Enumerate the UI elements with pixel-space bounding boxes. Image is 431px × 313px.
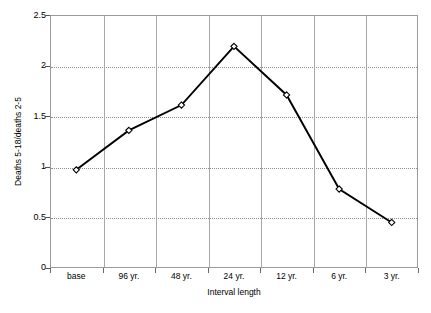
gridline-vertical — [156, 16, 157, 267]
line-chart: 2.5 2 1.5 1 0.5 0 — [0, 0, 431, 313]
x-tick-label: 24 yr. — [208, 272, 261, 281]
gridline-vertical — [209, 16, 210, 267]
gridline-horizontal — [51, 218, 417, 219]
y-axis-title-text: Deaths 5-18/deaths 2-5 — [14, 97, 23, 186]
gridline-horizontal — [51, 67, 417, 68]
x-tick-mark — [418, 268, 419, 273]
x-tick-label: 96 yr. — [103, 272, 156, 281]
x-tick-label: 6 yr. — [313, 272, 366, 281]
gridline-horizontal — [51, 168, 417, 169]
gridline-vertical — [261, 16, 262, 267]
plot-area — [50, 15, 418, 268]
x-tick-label: 3 yr. — [365, 272, 418, 281]
x-tick-label: 48 yr. — [155, 272, 208, 281]
x-tick-label: base — [50, 272, 103, 281]
gridline-horizontal — [51, 117, 417, 118]
y-axis-title: Deaths 5-18/deaths 2-5 — [12, 15, 24, 268]
gridline-vertical — [366, 16, 367, 267]
gridline-vertical — [314, 16, 315, 267]
x-tick-label: 12 yr. — [260, 272, 313, 281]
x-axis-title: Interval length — [50, 288, 418, 297]
gridline-vertical — [104, 16, 105, 267]
